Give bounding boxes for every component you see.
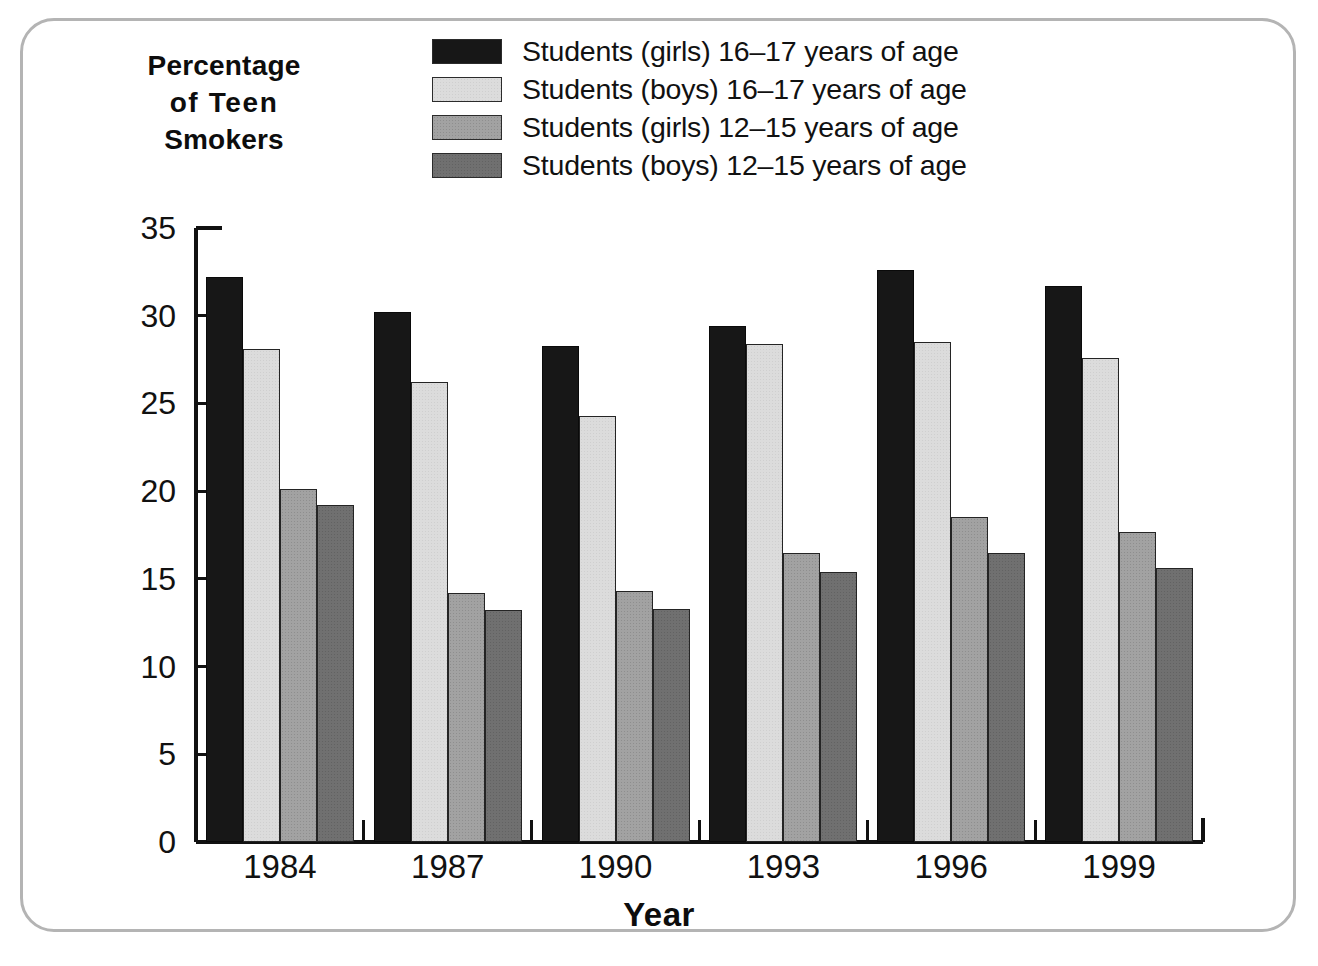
x-axis-title: Year — [0, 896, 1318, 934]
y-axis-title-line-3: Smokers — [118, 122, 330, 159]
legend-label: Students (boys) 12–15 years of age — [522, 149, 967, 182]
legend-swatch-boys-16-17 — [432, 77, 502, 102]
legend-label: Students (girls) 16–17 years of age — [522, 35, 959, 68]
y-axis-title-line-1: Percentage — [118, 48, 330, 85]
legend-label: Students (girls) 12–15 years of age — [522, 111, 959, 144]
legend-label: Students (boys) 16–17 years of age — [522, 73, 967, 106]
legend-item: Students (girls) 12–15 years of age — [432, 108, 1052, 146]
y-axis-title-line-2: of Teen — [118, 85, 330, 122]
legend-swatch-girls-16-17 — [432, 39, 502, 64]
legend: Students (girls) 16–17 years of age Stud… — [432, 32, 1052, 184]
legend-swatch-boys-12-15 — [432, 153, 502, 178]
legend-item: Students (boys) 12–15 years of age — [432, 146, 1052, 184]
legend-swatch-girls-12-15 — [432, 115, 502, 140]
y-axis-title: Percentage of Teen Smokers — [118, 48, 330, 159]
legend-item: Students (girls) 16–17 years of age — [432, 32, 1052, 70]
legend-item: Students (boys) 16–17 years of age — [432, 70, 1052, 108]
